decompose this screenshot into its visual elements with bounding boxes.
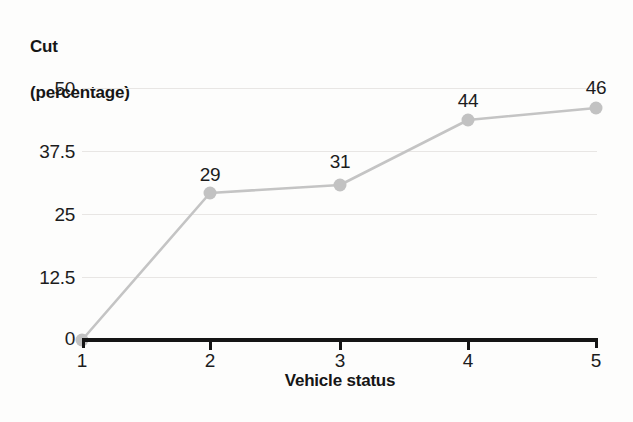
y-tick-label-12-5: 12.5: [39, 267, 75, 289]
gridline-50: [82, 88, 597, 89]
point-label-4: 44: [438, 90, 498, 112]
y-tick-label-0: 0: [65, 328, 75, 350]
gridline-12-5: [82, 277, 597, 278]
x-axis-title: Vehicle status: [82, 371, 598, 391]
x-tick-label-5: 5: [576, 350, 616, 372]
plot-area: 50 37.5 25 12.5 0 29 31 44 46 1 2 3 4 5 …: [0, 0, 633, 422]
point-label-3: 31: [310, 151, 370, 173]
point-label-2: 29: [180, 164, 240, 186]
x-tick-4: [467, 341, 470, 350]
y-tick-label-37-5: 37.5: [39, 141, 75, 163]
x-tick-label-4: 4: [448, 350, 488, 372]
x-tick-2: [209, 341, 212, 350]
x-tick-label-2: 2: [190, 350, 230, 372]
point-label-5: 46: [566, 77, 626, 99]
x-axis-left-cap: [82, 338, 85, 348]
x-tick-label-3: 3: [320, 350, 360, 372]
x-tick-3: [339, 341, 342, 350]
gridline-25: [82, 214, 597, 215]
y-tick-label-25: 25: [54, 204, 75, 226]
x-axis-right-cap: [595, 338, 598, 348]
line-chart: Cut (percentage) 50 37.5 25 12.5 0 29 31…: [0, 0, 633, 422]
y-tick-label-50: 50: [54, 78, 75, 100]
x-tick-label-1: 1: [62, 350, 102, 372]
